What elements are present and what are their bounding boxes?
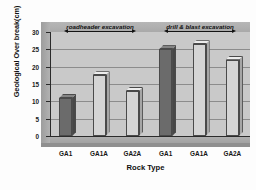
y-axis-tick-mark xyxy=(46,101,51,102)
y-axis-tick-label: 0 xyxy=(22,133,39,140)
arrow-head-right-icon xyxy=(232,29,236,33)
bar-side-face xyxy=(106,71,110,136)
y-axis-tick-label: 15 xyxy=(22,81,39,88)
bar-front-face xyxy=(93,75,106,136)
bar xyxy=(126,91,139,136)
y-axis-tick-mark xyxy=(46,119,51,120)
x-axis-tick-label: GA1 xyxy=(159,150,172,157)
y-axis-tick-label: 5 xyxy=(22,115,39,122)
x-axis-tick-label: GA2A xyxy=(123,150,141,157)
arrow-head-left-icon xyxy=(164,29,168,33)
grid-line xyxy=(50,67,250,68)
bar xyxy=(226,60,239,136)
x-axis-tick-label: GA1A xyxy=(190,150,208,157)
x-axis-line xyxy=(50,136,250,137)
bar xyxy=(59,98,72,136)
bar-side-face xyxy=(172,45,176,136)
y-axis-tick-mark xyxy=(46,49,51,50)
x-axis-title: Rock Type xyxy=(41,163,250,172)
grid-line xyxy=(50,119,250,120)
y-axis-tick-labels: 051015202530 xyxy=(22,22,39,147)
y-axis-tick-label: 25 xyxy=(22,46,39,53)
bar xyxy=(159,49,172,136)
y-axis-tick-label: 30 xyxy=(22,29,39,36)
bar-front-face xyxy=(193,44,206,136)
x-axis-tick-labels: GA1GA1AGA2AGA1GA1AGA2A xyxy=(41,150,250,162)
group-annotation-label: drill & blast excavation xyxy=(140,23,256,30)
x-axis-tick-label: GA1A xyxy=(90,150,108,157)
y-axis-tick-label: 20 xyxy=(22,63,39,70)
bar-front-face xyxy=(126,91,139,136)
group-annotation-arrow xyxy=(67,31,134,32)
y-axis-tick-mark xyxy=(46,67,51,68)
arrow-head-right-icon xyxy=(132,29,136,33)
bar-side-face xyxy=(206,40,210,136)
plot-floor-front xyxy=(41,143,250,147)
arrow-head-left-icon xyxy=(64,29,68,33)
bar-chart: Geological Over break(cm) 051015202530 r… xyxy=(0,0,256,190)
x-axis-tick-label: GA1 xyxy=(59,150,72,157)
bar-side-face xyxy=(139,87,143,136)
grid-line xyxy=(50,101,250,102)
group-annotation-arrow xyxy=(167,31,234,32)
plot-area: roadheader excavationdrill & blast excav… xyxy=(41,22,250,147)
bar-side-face xyxy=(72,94,76,136)
bar-front-face xyxy=(59,98,72,136)
y-axis-tick-mark xyxy=(46,84,51,85)
bar xyxy=(193,44,206,136)
x-axis-tick-label: GA2A xyxy=(223,150,241,157)
y-axis-tick-mark xyxy=(46,136,51,137)
grid-line xyxy=(50,84,250,85)
bar-side-face xyxy=(239,56,243,136)
grid-line xyxy=(50,49,250,50)
bar-front-face xyxy=(159,49,172,136)
y-axis-tick-mark xyxy=(46,32,51,33)
bar xyxy=(93,75,106,136)
y-axis-tick-label: 10 xyxy=(22,98,39,105)
y-axis-title: Geological Over break(cm) xyxy=(12,0,21,114)
bar-front-face xyxy=(226,60,239,136)
